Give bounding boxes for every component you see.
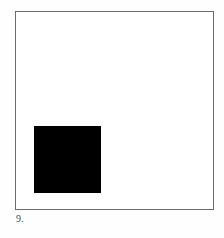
- figure-plate: 9.: [0, 0, 224, 238]
- black-square-shape: [34, 126, 101, 193]
- figure-frame: [15, 11, 214, 210]
- figure-field: [16, 12, 213, 209]
- figure-caption: 9.: [16, 213, 24, 225]
